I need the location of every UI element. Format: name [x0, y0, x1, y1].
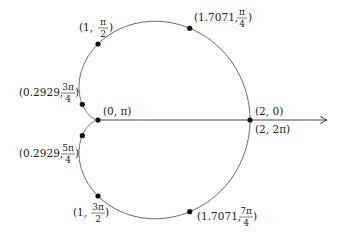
- point-marker-p2: [95, 41, 100, 46]
- label-p1: (1.7071, π 4 ): [194, 7, 252, 29]
- label-p5-num: 5π: [62, 143, 74, 153]
- label-p2-prefix: (1,: [79, 21, 93, 33]
- cardioid-diagram: (2, 0) (2, 2π) (0, π) (1.7071, π 4 ) (1,…: [0, 0, 341, 242]
- point-marker-p0: [247, 117, 252, 122]
- label-p2-num: π: [100, 17, 106, 27]
- point-marker-p5: [80, 133, 85, 138]
- label-p7: (1.7071, 7π 4 ): [197, 206, 257, 228]
- label-p7-close: ): [253, 210, 257, 222]
- label-p3-num: 3π: [62, 82, 74, 92]
- label-p5-den: 4: [65, 155, 71, 165]
- point-marker-p7: [187, 209, 192, 214]
- label-p6-close: ): [105, 206, 109, 218]
- label-p4: (0, π): [103, 105, 131, 117]
- label-p3-prefix: (0.2929,: [19, 86, 63, 98]
- label-p6-prefix: (1,: [73, 206, 87, 218]
- label-p6-num: 3π: [92, 202, 104, 212]
- label-p5-close: ): [75, 147, 79, 159]
- label-p2-close: ): [109, 21, 113, 33]
- label-p1-prefix: (1.7071,: [194, 11, 238, 23]
- point-marker-p1: [187, 26, 192, 31]
- label-p5-prefix: (0.2929,: [19, 147, 63, 159]
- label-p7-num: 7π: [240, 206, 252, 216]
- point-marker-p3: [80, 102, 85, 107]
- diagram-canvas: (2, 0) (2, 2π) (0, π) (1.7071, π 4 ) (1,…: [0, 0, 341, 242]
- label-p6: (1, 3π 2 ): [73, 202, 109, 224]
- label-p6-den: 2: [95, 214, 101, 224]
- label-p3-close: ): [75, 86, 79, 98]
- point-marker-p6: [95, 193, 100, 198]
- point-marker-p4: [95, 117, 100, 122]
- label-p1-den: 4: [239, 19, 245, 29]
- label-p1-close: ): [248, 11, 252, 23]
- label-p0: (2, 0): [255, 105, 283, 117]
- label-p7-den: 4: [243, 218, 249, 228]
- label-p7-prefix: (1.7071,: [197, 210, 241, 222]
- label-p2-den: 2: [100, 29, 106, 39]
- label-p5: (0.2929, 5π 4 ): [19, 143, 79, 165]
- label-p1-num: π: [239, 7, 245, 17]
- label-p3: (0.2929, 3π 4 ): [19, 82, 79, 104]
- label-p8: (2, 2π): [255, 123, 290, 135]
- label-p3-den: 4: [65, 94, 71, 104]
